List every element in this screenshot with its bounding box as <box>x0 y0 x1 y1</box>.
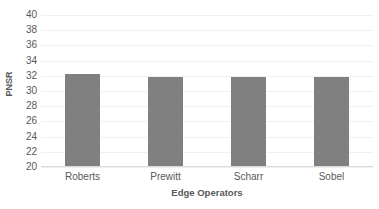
y-axis-tick-label: 36 <box>26 40 37 50</box>
bar[interactable] <box>231 77 266 167</box>
y-axis-tick-label: 28 <box>26 101 37 111</box>
y-axis-tick-label: 20 <box>26 162 37 172</box>
y-axis-tick-label: 30 <box>26 86 37 96</box>
bar[interactable] <box>65 74 100 167</box>
bar-chart: PNSR 4038363432302826242220 RobertsPrewi… <box>0 0 379 209</box>
y-axis-tick-label: 22 <box>26 147 37 157</box>
x-axis-title-label: Edge Operators <box>171 187 242 198</box>
bar[interactable] <box>148 77 183 167</box>
x-axis-tick-label: Prewitt <box>124 169 207 185</box>
y-axis-tick-label: 40 <box>26 10 37 20</box>
x-axis-tick-labels: RobertsPrewittScharrSobel <box>41 169 373 185</box>
bar[interactable] <box>314 77 349 167</box>
y-axis-title-label: PNSR <box>4 71 14 96</box>
bar-slot <box>41 15 124 167</box>
plot-area <box>41 15 373 167</box>
y-axis-tick-labels: 4038363432302826242220 <box>17 8 39 167</box>
y-axis-tick-label: 24 <box>26 132 37 142</box>
bar-series <box>41 15 373 167</box>
x-axis-line <box>41 166 373 167</box>
x-axis-title: Edge Operators <box>41 187 373 198</box>
y-axis-tick-label: 32 <box>26 71 37 81</box>
bar-slot <box>207 15 290 167</box>
y-axis-tick-label: 38 <box>26 25 37 35</box>
x-axis-tick-label: Sobel <box>290 169 373 185</box>
y-axis-tick-label: 34 <box>26 56 37 66</box>
y-axis-tick-label: 26 <box>26 116 37 126</box>
x-axis-tick-label: Roberts <box>41 169 124 185</box>
gridline <box>41 167 373 168</box>
bar-slot <box>124 15 207 167</box>
x-axis-tick-label: Scharr <box>207 169 290 185</box>
bar-slot <box>290 15 373 167</box>
y-axis-title: PNSR <box>0 0 17 167</box>
